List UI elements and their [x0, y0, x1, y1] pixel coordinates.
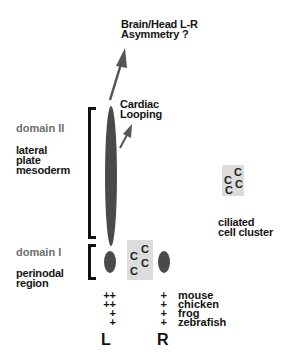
asymmetry-arrow	[110, 48, 127, 100]
domain-i-label: domain I	[16, 246, 61, 258]
cilium-icon: C	[235, 179, 243, 189]
region-line2: region	[16, 278, 64, 288]
lateral-plate-mesoderm-label: lateral plate mesoderm	[16, 145, 70, 175]
cilium-icon: C	[141, 244, 149, 254]
left-side-label: L	[101, 331, 111, 349]
cilia-legend-box: C C C C	[222, 165, 244, 196]
perinodal-region-label: perinodal region	[16, 268, 64, 288]
left-perinodal-shape	[104, 251, 116, 273]
domain-ii-label: domain II	[16, 122, 64, 134]
cilia-label-line2: cell cluster	[218, 227, 273, 237]
brain-asymmetry-label: Brain/Head L-R Asymmetry ?	[121, 19, 198, 39]
cilium-icon: C	[225, 185, 233, 195]
ciliated-cell-cluster-label: ciliated cell cluster	[218, 217, 273, 237]
cardiac-looping-label: Cardiac Looping	[120, 99, 162, 119]
cardiac-line2: Looping	[120, 109, 162, 119]
cilium-icon: C	[234, 167, 242, 177]
cilium-icon: C	[130, 266, 138, 276]
cilium-icon: C	[130, 251, 138, 261]
left-expression-zebrafish: +	[100, 318, 116, 327]
species-zebrafish: zebrafish	[178, 318, 226, 327]
right-perinodal-shape	[158, 251, 170, 273]
lateral-plate-shape	[105, 106, 117, 246]
diagram-shapes	[0, 0, 292, 354]
node-cilia-box: C C C C	[127, 240, 153, 280]
tissue-line3: mesoderm	[16, 165, 70, 175]
domain-ii-bracket	[88, 107, 96, 239]
right-expression-zebrafish: +	[158, 318, 167, 327]
domain-i-bracket	[88, 244, 96, 280]
cardiac-arrow	[120, 124, 132, 148]
right-side-label: R	[157, 331, 169, 349]
brain-asymmetry-line2: Asymmetry ?	[121, 29, 198, 39]
cilium-icon: C	[141, 258, 149, 268]
